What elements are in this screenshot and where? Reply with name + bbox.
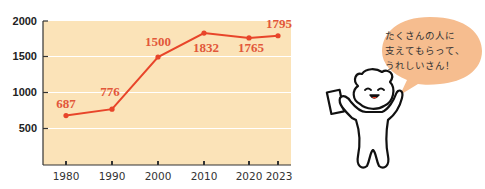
x-tick-label: 2000 — [145, 170, 172, 182]
x-tick-label: 1990 — [99, 170, 126, 182]
value-label: 1832 — [193, 40, 219, 55]
x-tick-label: 2010 — [191, 170, 218, 182]
value-label: 1500 — [145, 34, 171, 49]
speech-line: うれしいさん！ — [385, 58, 485, 73]
y-tick-label: 1000 — [13, 86, 37, 98]
data-point — [275, 33, 280, 38]
bear-character-illustration — [327, 69, 403, 167]
data-point — [201, 30, 206, 35]
speech-line: たくさんの人に — [385, 28, 485, 43]
x-tick-label: 2023 — [266, 170, 293, 182]
value-label: 776 — [100, 84, 120, 99]
value-label: 687 — [56, 96, 76, 111]
value-label: 1765 — [238, 40, 265, 55]
x-tick-label: 2020 — [236, 170, 263, 182]
y-tick-label: 2000 — [13, 15, 37, 27]
value-label: 1795 — [266, 16, 293, 31]
data-point — [109, 107, 114, 112]
y-tick-label: 500 — [19, 122, 37, 134]
speech-bubble-text: たくさんの人に 支えてもらって、 うれしいさん！ — [385, 28, 485, 73]
x-tick-label: 1980 — [53, 170, 80, 182]
data-point — [155, 54, 160, 59]
data-point — [63, 113, 68, 118]
speech-line: 支えてもらって、 — [385, 43, 485, 58]
y-tick-label: 1500 — [13, 50, 37, 62]
